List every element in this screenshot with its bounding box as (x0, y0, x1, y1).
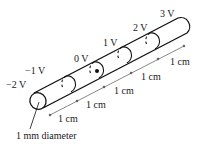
cylinder (27, 18, 190, 113)
potential-label: 1 V (103, 38, 118, 48)
potential-label: −2 V (6, 80, 26, 90)
spacing-label: 1 cm (114, 86, 134, 96)
diameter-label: 1 mm diameter (16, 131, 77, 141)
spacing-label: 1 cm (86, 100, 106, 110)
potential-label: 3 V (160, 9, 175, 19)
spacing-label: 1 cm (58, 114, 78, 124)
spacing-label: 1 cm (141, 72, 161, 82)
potential-label: 0 V (74, 54, 89, 64)
dimension-line (49, 45, 185, 116)
spacing-label: 1 cm (170, 57, 190, 67)
potential-label: 2 V (133, 23, 148, 33)
center-dot (95, 69, 99, 73)
wire-potential-diagram: −2 V −1 V 0 V 1 V 2 V 3 V 1 cm 1 cm 1 cm… (0, 0, 204, 144)
potential-label: −1 V (25, 66, 45, 76)
